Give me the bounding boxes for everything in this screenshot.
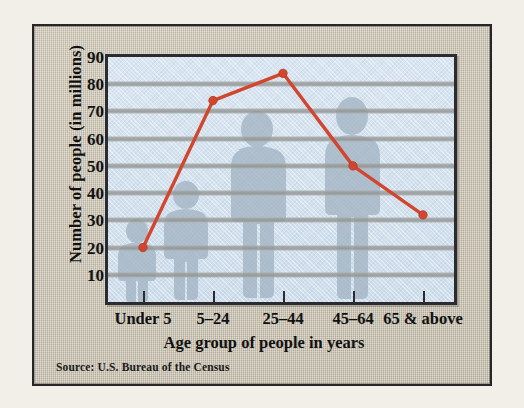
- series-markers: [139, 69, 427, 252]
- x-axis-title: Age group of people in years: [34, 333, 494, 353]
- data-point-2: [279, 69, 287, 77]
- y-tick-label: 80: [62, 76, 104, 93]
- plot-area: [105, 54, 457, 305]
- y-tick-label: 60: [62, 130, 104, 147]
- chart-card: Number of people (in millions) 102030405…: [32, 24, 492, 386]
- x-tick-label: Under 5: [115, 309, 172, 329]
- data-point-3: [349, 162, 357, 170]
- x-axis-tick-labels: Under 55–2425–4445–6465 & above: [105, 309, 457, 333]
- series-polyline: [143, 73, 423, 247]
- x-tick-label: 5–24: [197, 309, 230, 329]
- data-point-0: [139, 243, 147, 251]
- source-note: Source: U.S. Bureau of the Census: [56, 361, 230, 373]
- y-tick-label: 90: [62, 49, 104, 66]
- y-tick-label: 30: [62, 212, 104, 229]
- x-tick-label: 25–44: [262, 309, 303, 329]
- y-tick-label: 40: [62, 185, 104, 202]
- y-tick-label: 10: [62, 266, 104, 283]
- y-tick-label: 20: [62, 239, 104, 256]
- figure-page: Number of people (in millions) 102030405…: [0, 0, 524, 408]
- y-tick-label: 50: [62, 157, 104, 174]
- x-tick-label: 45–64: [332, 309, 373, 329]
- y-tick-label: 70: [62, 103, 104, 120]
- data-point-4: [419, 211, 427, 219]
- data-series-line: [108, 57, 454, 302]
- x-tick-label: 65 & above: [383, 309, 463, 329]
- data-point-1: [209, 96, 217, 104]
